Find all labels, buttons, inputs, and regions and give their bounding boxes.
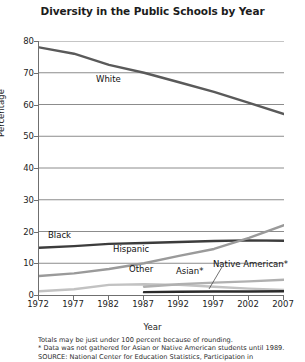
y-axis-tick-label: 20 [8,228,34,236]
x-axis-tick-label: 1997 [193,299,233,309]
chart-figure: Diversity in the Public Schools by Year … [0,0,305,362]
x-axis-tick-mark [108,296,109,300]
x-axis-tick-mark [38,296,39,300]
x-axis-label: Year [0,322,305,332]
y-axis-tick-mark [34,41,38,42]
y-axis-tick-label: 60 [8,101,34,109]
y-axis-tick-label: 50 [8,132,34,140]
x-axis-tick-mark [143,296,144,300]
y-axis-tick-mark [34,232,38,233]
y-axis-tick-mark [34,200,38,201]
x-axis-tick-label: 1992 [158,299,198,309]
plot-area [38,41,284,296]
series-line-black [39,240,284,247]
y-axis-tick-label: 80 [8,37,34,45]
series-label-other: Other [129,264,153,274]
footnote-line: Totals may be just under 100 percent bec… [38,336,300,344]
y-axis-tick-mark [34,263,38,264]
y-axis-tick-label: 10 [8,259,34,267]
x-axis-tick-mark [213,296,214,300]
series-label-hispanic: Hispanic [113,244,149,254]
x-axis-tick-mark [248,296,249,300]
x-axis-tick-label: 1977 [53,299,93,309]
series-label-white: White [96,74,121,84]
x-axis-tick-mark [178,296,179,300]
footnote-line: * Data was not gathered for Asian or Nat… [38,344,300,352]
x-axis-tick-label: 1972 [18,299,58,309]
x-axis-tick-label: 2002 [228,299,268,309]
y-axis-tick-mark [34,105,38,106]
plot-canvas [39,41,284,295]
x-axis-tick-label: 2007 [263,299,303,309]
y-axis-label: Percentage [0,78,6,148]
y-axis-tick-label: 70 [8,69,34,77]
y-axis-tick-mark [34,136,38,137]
series-line-native-american [144,291,284,292]
y-axis-tick-label: 30 [8,196,34,204]
series-line-white [39,47,284,114]
series-label-native-american: Native American* [213,259,288,269]
y-axis-tick-mark [34,168,38,169]
x-axis-tick-mark [283,296,284,300]
x-axis-tick-label: 1982 [88,299,128,309]
y-axis-tick-label: 40 [8,164,34,172]
series-label-black: Black [48,230,71,240]
series-label-asian: Asian* [176,266,203,276]
y-axis-tick-label: 0 [8,291,34,299]
footnotes: Totals may be just under 100 percent bec… [38,336,300,361]
y-axis-tick-mark [34,73,38,74]
chart-title: Diversity in the Public Schools by Year [0,5,305,17]
x-axis-tick-mark [73,296,74,300]
footnote-line: SOURCE: National Center for Education St… [38,353,300,361]
x-axis-tick-label: 1987 [123,299,163,309]
